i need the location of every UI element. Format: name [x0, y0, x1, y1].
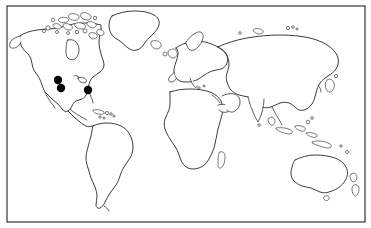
occurrence-point-1: [54, 76, 62, 84]
occurrence-point-2: [57, 84, 65, 92]
occurrence-point-3: [84, 86, 92, 94]
world-distribution-map-figure: [0, 0, 371, 228]
world-map-graphic: [0, 0, 371, 228]
map-frame: [0, 0, 371, 228]
